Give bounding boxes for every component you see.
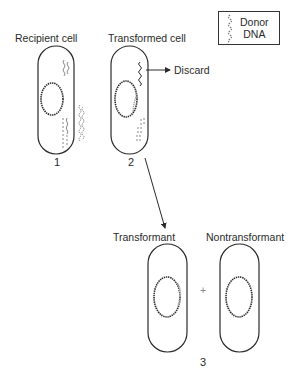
chromosome bbox=[154, 277, 180, 317]
discarded-strand bbox=[139, 62, 142, 86]
progression-arrow bbox=[145, 158, 165, 228]
diagram-artwork bbox=[0, 0, 303, 376]
transformant-cell bbox=[148, 244, 187, 352]
nontransformant-cell bbox=[220, 244, 259, 352]
chromosome bbox=[226, 277, 252, 317]
transformed-cell bbox=[111, 46, 170, 154]
degraded-fragments bbox=[137, 118, 144, 142]
chromosome bbox=[41, 83, 63, 115]
recipient-cell bbox=[38, 46, 84, 154]
